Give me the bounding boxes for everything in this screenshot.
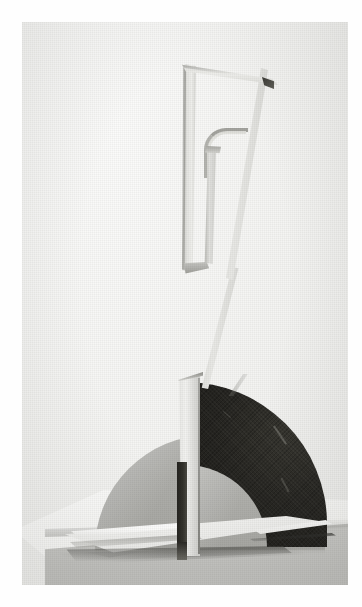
frame-left-member-foot — [184, 262, 209, 274]
diagonal-connecting-strut — [198, 267, 244, 389]
vertical-plate-dark-band-foot — [177, 542, 187, 560]
photograph-plate — [22, 22, 348, 585]
vertical-plate-right-edge — [198, 378, 200, 554]
screenshot-root — [0, 0, 362, 607]
